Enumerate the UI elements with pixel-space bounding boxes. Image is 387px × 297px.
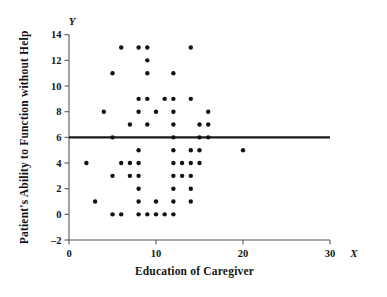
data-point	[145, 45, 149, 49]
y-tick-label: 4	[56, 158, 62, 169]
data-point	[180, 174, 184, 178]
data-point	[136, 97, 140, 101]
data-point-group	[84, 45, 245, 216]
data-point	[171, 97, 175, 101]
data-point	[145, 97, 149, 101]
data-point	[145, 212, 149, 216]
data-point	[154, 199, 158, 203]
data-point	[171, 186, 175, 190]
data-point	[189, 174, 193, 178]
data-point	[197, 148, 201, 152]
data-point	[136, 148, 140, 152]
data-point	[128, 174, 132, 178]
data-point	[180, 161, 184, 165]
data-point	[189, 45, 193, 49]
x-tick-label: 10	[151, 248, 162, 259]
data-point	[136, 212, 140, 216]
data-point	[119, 45, 123, 49]
data-point	[189, 97, 193, 101]
data-point	[110, 174, 114, 178]
data-point	[119, 161, 123, 165]
y-tick-label: 6	[56, 132, 61, 143]
data-point	[154, 212, 158, 216]
data-point	[171, 148, 175, 152]
data-point	[84, 161, 88, 165]
data-point	[128, 122, 132, 126]
data-point	[241, 148, 245, 152]
y-tick-label: 10	[51, 81, 62, 92]
data-point	[206, 109, 210, 113]
scatterplot-canvas: –2024681012140102030YXEducation of Careg…	[0, 0, 387, 297]
y-tick-label: –2	[50, 235, 62, 246]
data-point	[171, 161, 175, 165]
y-axis-title: Patient's Ability to Function without He…	[18, 30, 31, 244]
data-point	[171, 71, 175, 75]
x-axis-variable-label: X	[349, 247, 358, 259]
data-point	[197, 135, 201, 139]
data-point	[163, 212, 167, 216]
data-point	[145, 58, 149, 62]
data-point	[171, 212, 175, 216]
data-point	[197, 122, 201, 126]
data-point	[93, 199, 97, 203]
data-point	[189, 161, 193, 165]
y-axis-variable-label: Y	[69, 15, 77, 27]
data-point	[145, 71, 149, 75]
y-tick-label: 8	[56, 106, 61, 117]
data-point	[171, 174, 175, 178]
x-tick-label: 30	[325, 248, 336, 259]
data-point	[163, 97, 167, 101]
x-axis-title: Education of Caregiver	[135, 265, 254, 278]
data-point	[136, 161, 140, 165]
data-point	[171, 135, 175, 139]
data-point	[197, 161, 201, 165]
y-tick-label: 0	[56, 209, 61, 220]
data-point	[171, 199, 175, 203]
data-point	[102, 109, 106, 113]
x-tick-label: 20	[238, 248, 249, 259]
data-point	[206, 122, 210, 126]
data-point	[189, 148, 193, 152]
data-point	[206, 135, 210, 139]
data-point	[110, 71, 114, 75]
data-point	[128, 161, 132, 165]
data-point	[145, 122, 149, 126]
data-point	[171, 122, 175, 126]
data-point	[110, 212, 114, 216]
data-point	[136, 186, 140, 190]
y-tick-label: 2	[56, 183, 61, 194]
data-point	[189, 186, 193, 190]
data-point	[136, 109, 140, 113]
x-tick-label: 0	[66, 248, 71, 259]
y-tick-label: 12	[51, 55, 62, 66]
data-point	[119, 212, 123, 216]
data-point	[154, 109, 158, 113]
data-point	[136, 199, 140, 203]
scatterplot-figure: –2024681012140102030YXEducation of Careg…	[0, 0, 387, 297]
data-point	[136, 174, 140, 178]
data-point	[110, 135, 114, 139]
data-point	[189, 199, 193, 203]
data-point	[171, 109, 175, 113]
data-point	[136, 45, 140, 49]
y-tick-label: 14	[51, 29, 62, 40]
